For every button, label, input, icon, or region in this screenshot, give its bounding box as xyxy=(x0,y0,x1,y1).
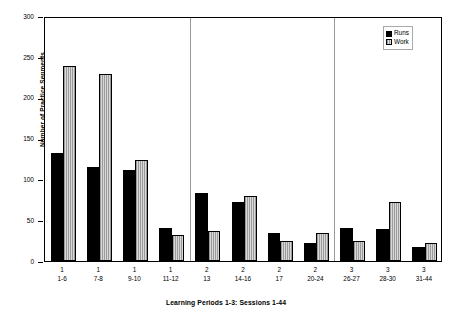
bar-work xyxy=(135,160,148,261)
y-tick-label: 150 xyxy=(0,136,34,143)
x-tick-period: 2 xyxy=(297,266,333,275)
bar-group xyxy=(376,16,401,261)
y-tick-label: 300 xyxy=(0,14,34,21)
bar-runs xyxy=(51,153,64,261)
x-tick-label: 111-12 xyxy=(153,266,189,283)
x-tick-period: 2 xyxy=(189,266,225,275)
bar-runs xyxy=(376,229,389,261)
x-tick-label: 19-10 xyxy=(116,266,152,283)
bar-work xyxy=(353,241,366,261)
bar-group xyxy=(195,16,220,261)
bar-group xyxy=(304,16,329,261)
x-tick-label: 11-6 xyxy=(44,266,80,283)
bar-work xyxy=(244,196,257,261)
y-tick-mark xyxy=(38,221,43,222)
y-tick-mark xyxy=(38,262,43,263)
x-tick-period: 1 xyxy=(116,266,152,275)
period-divider xyxy=(190,18,191,261)
legend-item-work: Work xyxy=(386,38,409,46)
x-tick-period: 1 xyxy=(153,266,189,275)
legend-label-work: Work xyxy=(394,39,409,45)
bar-group xyxy=(159,16,184,261)
bar-runs xyxy=(304,243,317,261)
bar-chart: Number of Practice Segments Learning Per… xyxy=(0,0,452,319)
y-tick-label: 250 xyxy=(0,55,34,62)
bar-runs xyxy=(268,233,281,261)
x-tick-label: 331-44 xyxy=(406,266,442,283)
bar-runs xyxy=(123,170,136,261)
bar-work xyxy=(425,243,438,261)
x-tick-period: 1 xyxy=(44,266,80,275)
y-tick-label: 200 xyxy=(0,95,34,102)
x-tick-sessions: 1-6 xyxy=(44,275,80,284)
bar-group xyxy=(340,16,365,261)
bar-runs xyxy=(87,167,100,261)
legend-swatch-work xyxy=(386,39,392,45)
bar-work xyxy=(280,241,293,261)
x-tick-label: 328-30 xyxy=(370,266,406,283)
bar-work xyxy=(99,74,112,261)
x-tick-sessions: 26-27 xyxy=(333,275,369,284)
bar-runs xyxy=(232,202,245,261)
x-tick-sessions: 28-30 xyxy=(370,275,406,284)
y-tick-mark xyxy=(38,140,43,141)
bar-work xyxy=(208,231,221,261)
x-tick-period: 3 xyxy=(406,266,442,275)
x-tick-sessions: 14-16 xyxy=(225,275,261,284)
y-tick-label: 50 xyxy=(0,218,34,225)
legend-swatch-runs xyxy=(386,31,392,37)
x-tick-period: 1 xyxy=(80,266,116,275)
x-tick-period: 3 xyxy=(333,266,369,275)
x-axis-title: Learning Periods 1-3: Sessions 1-44 xyxy=(0,299,452,306)
bar-group xyxy=(268,16,293,261)
x-tick-label: 217 xyxy=(261,266,297,283)
x-tick-period: 3 xyxy=(370,266,406,275)
bar-runs xyxy=(195,193,208,261)
x-tick-period: 2 xyxy=(225,266,261,275)
bar-group xyxy=(87,16,112,261)
bar-work xyxy=(172,235,185,261)
bar-work xyxy=(389,202,402,261)
bar-group xyxy=(123,16,148,261)
y-tick-mark xyxy=(38,58,43,59)
y-tick-mark xyxy=(38,180,43,181)
x-tick-label: 213 xyxy=(189,266,225,283)
period-divider xyxy=(334,18,335,261)
x-tick-sessions: 7-8 xyxy=(80,275,116,284)
legend-label-runs: Runs xyxy=(394,30,409,36)
legend-item-runs: Runs xyxy=(386,30,409,38)
x-tick-label: 326-27 xyxy=(333,266,369,283)
x-tick-label: 220-24 xyxy=(297,266,333,283)
x-tick-sessions: 31-44 xyxy=(406,275,442,284)
bar-group xyxy=(232,16,257,261)
bar-work xyxy=(63,66,76,261)
x-tick-period: 2 xyxy=(261,266,297,275)
bar-runs xyxy=(159,228,172,261)
x-tick-label: 17-8 xyxy=(80,266,116,283)
plot-area xyxy=(44,17,442,262)
legend: Runs Work xyxy=(383,26,413,50)
y-tick-mark xyxy=(38,17,43,18)
bar-work xyxy=(316,233,329,261)
x-tick-sessions: 11-12 xyxy=(153,275,189,284)
y-tick-mark xyxy=(38,99,43,100)
y-tick-label: 100 xyxy=(0,177,34,184)
x-tick-label: 214-16 xyxy=(225,266,261,283)
x-tick-sessions: 13 xyxy=(189,275,225,284)
bar-runs xyxy=(412,247,425,261)
bar-group xyxy=(51,16,76,261)
bar-runs xyxy=(340,228,353,261)
y-tick-label: 0 xyxy=(0,259,34,266)
x-tick-sessions: 17 xyxy=(261,275,297,284)
bar-group xyxy=(412,16,437,261)
x-tick-sessions: 9-10 xyxy=(116,275,152,284)
x-tick-sessions: 20-24 xyxy=(297,275,333,284)
